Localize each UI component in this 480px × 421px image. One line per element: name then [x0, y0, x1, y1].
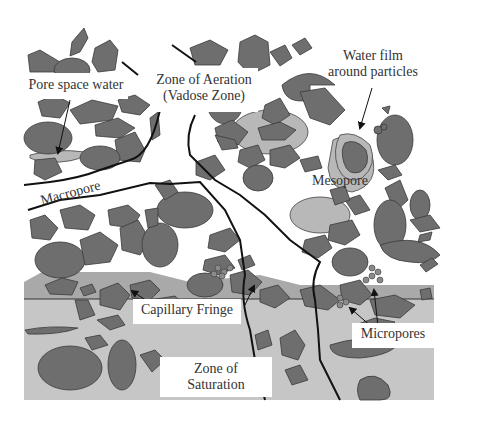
- capillary-fringe-text: Capillary Fringe: [141, 302, 233, 317]
- micropores-label: Micropores: [352, 323, 434, 348]
- pore-space-water-label: Pore space water: [24, 73, 128, 99]
- zone-of-aeration-label: Zone of Aeration (Vadose Zone): [150, 68, 258, 112]
- water-film-line1: Water film: [318, 48, 428, 64]
- capillary-fringe-label: Capillary Fringe: [133, 299, 241, 324]
- zone-of-aeration-line2: (Vadose Zone): [150, 88, 258, 104]
- zone-of-saturation-line2: Saturation: [160, 377, 272, 393]
- zone-of-aeration-line1: Zone of Aeration: [150, 72, 258, 88]
- micropores-text: Micropores: [361, 326, 426, 341]
- mesopore-label: Mesopore: [312, 173, 368, 188]
- zone-of-saturation-label: Zone of Saturation: [160, 357, 272, 397]
- water-film-line2: around particles: [318, 64, 428, 80]
- water-film-label: Water film around particles: [318, 48, 428, 80]
- zone-of-saturation-line1: Zone of: [160, 361, 272, 377]
- pore-space-water-text: Pore space water: [29, 77, 124, 92]
